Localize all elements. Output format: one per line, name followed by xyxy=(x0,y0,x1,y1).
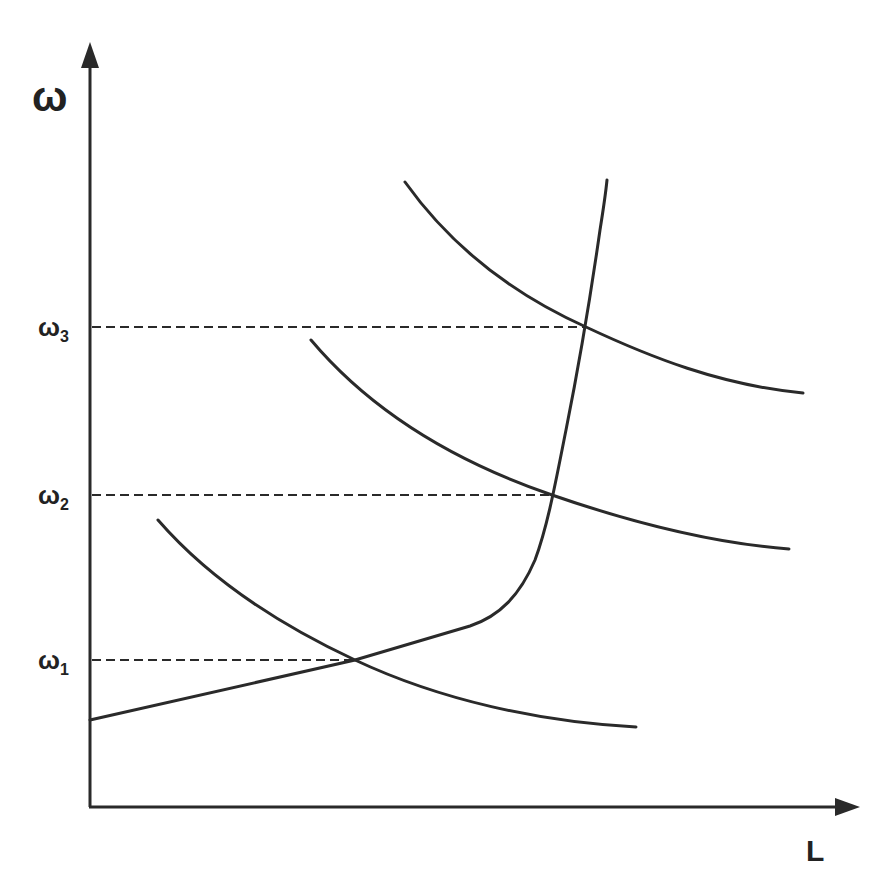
x-axis-arrow-icon xyxy=(835,798,860,816)
demand-curve-2 xyxy=(311,340,789,549)
tick-subscript: 2 xyxy=(60,496,69,513)
y-axis-arrow-icon xyxy=(81,42,99,68)
tick-label-w2: ω2 xyxy=(38,482,69,513)
tick-subscript: 1 xyxy=(60,661,69,678)
tick-symbol: ω xyxy=(38,312,60,342)
tick-subscript: 3 xyxy=(60,328,69,345)
supply-curve xyxy=(90,180,607,720)
labor-market-diagram xyxy=(0,0,890,890)
tick-symbol: ω xyxy=(38,480,60,510)
tick-symbol: ω xyxy=(38,645,60,675)
demand-curve-1 xyxy=(158,520,636,727)
x-axis-label: L xyxy=(806,836,824,866)
tick-label-w3: ω3 xyxy=(38,314,69,345)
y-axis-label: ω xyxy=(32,76,67,118)
tick-label-w1: ω1 xyxy=(38,647,69,678)
